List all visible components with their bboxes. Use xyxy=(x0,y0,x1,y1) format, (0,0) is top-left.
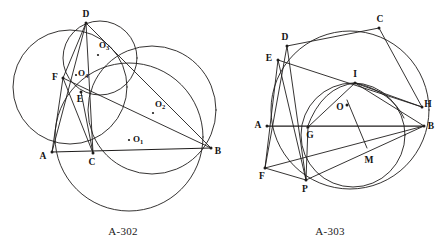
chord-DC xyxy=(287,28,379,46)
center-dot-o3 xyxy=(97,54,99,56)
vertex-dot-c xyxy=(92,152,95,155)
chord-FP xyxy=(265,168,306,180)
vertex-dot-b xyxy=(210,147,213,150)
center-dot-o1 xyxy=(128,139,130,141)
vertex-dot-p xyxy=(305,179,308,182)
point-label-p: P xyxy=(302,184,308,194)
figure-a-303: ABCDEFGHIMPO xyxy=(255,14,435,194)
center-label-o4: O4 xyxy=(78,68,89,79)
geometry-canvas: ABCDEFO1O2O3O4 ABCDEFGHIMPO A-302 A-303 xyxy=(0,0,443,251)
vertex-dot-f xyxy=(62,77,65,80)
point-label-a: A xyxy=(40,151,47,161)
caption-a-302: A-302 xyxy=(108,225,138,237)
center-dot-o4 xyxy=(75,74,77,76)
chord-EF xyxy=(265,60,278,168)
point-label-e: E xyxy=(266,53,272,63)
vertex-dot-g xyxy=(307,126,310,129)
side-AB xyxy=(52,148,211,152)
point-label-h: H xyxy=(424,99,432,109)
point-label-g: G xyxy=(306,130,314,140)
center-label-o3: O3 xyxy=(99,40,110,51)
vertex-dot-e xyxy=(80,91,83,94)
point-label-f: F xyxy=(259,171,265,181)
center-dot-o2 xyxy=(152,112,154,114)
vertex-dot-f xyxy=(264,167,267,170)
figure-sheet: ABCDEFO1O2O3O4 ABCDEFGHIMPO A-302 A-303 xyxy=(0,0,443,251)
vertex-dot-b xyxy=(423,125,426,128)
figure-a-302: ABCDEFO1O2O3O4 xyxy=(13,9,222,211)
vertex-dot-e xyxy=(277,59,280,62)
point-label-i: I xyxy=(353,69,357,79)
point-label-f: F xyxy=(52,72,58,82)
vertex-dot-c xyxy=(378,27,381,30)
vertex-dot-a xyxy=(51,151,54,154)
circle-O3-small xyxy=(63,21,137,95)
point-label-o: O xyxy=(336,102,343,112)
circle-O2-right xyxy=(88,46,216,174)
center-label-o1: O1 xyxy=(133,134,143,145)
vertex-dot-i xyxy=(354,82,357,85)
point-label-a: A xyxy=(255,120,262,130)
vertex-dot-h xyxy=(421,106,424,109)
point-label-e: E xyxy=(77,94,83,104)
point-label-d: D xyxy=(282,32,289,42)
side-AD xyxy=(52,23,86,152)
point-label-b: B xyxy=(428,121,435,131)
point-label-m: M xyxy=(365,155,374,165)
caption-a-303: A-303 xyxy=(315,225,345,237)
vertex-dot-o xyxy=(346,104,349,107)
vertex-dot-d xyxy=(85,22,88,25)
point-label-b: B xyxy=(215,146,222,156)
point-label-c: C xyxy=(89,157,96,167)
circle-outer xyxy=(271,31,429,189)
vertex-dot-a xyxy=(266,125,269,128)
vertex-dot-d xyxy=(286,45,289,48)
chord-PB xyxy=(306,126,424,180)
chord-FB xyxy=(265,126,424,168)
point-label-d: D xyxy=(83,9,90,19)
chord-DF xyxy=(265,46,287,168)
segment-OM xyxy=(347,100,367,148)
chord-EP xyxy=(278,60,306,180)
point-label-c: C xyxy=(377,14,384,24)
